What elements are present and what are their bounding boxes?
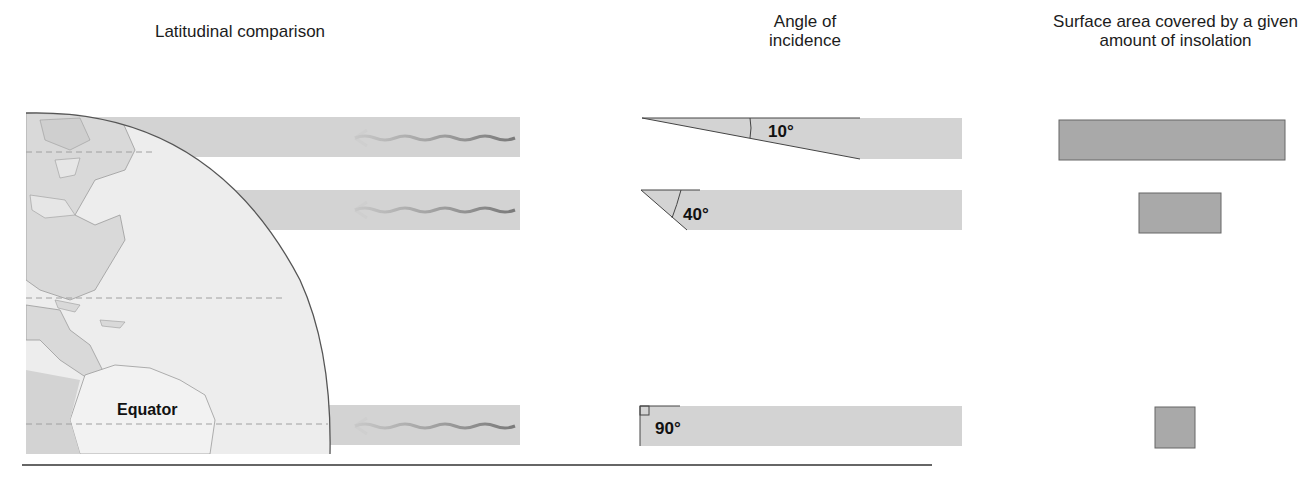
globe [26, 113, 330, 454]
angle-label-40: 40° [683, 205, 709, 225]
angle-label-90: 90° [655, 419, 681, 439]
angle-diagrams [640, 118, 962, 446]
area-box-40deg [1139, 193, 1221, 233]
area-box-10deg [1059, 120, 1285, 160]
angle-label-10: 10° [768, 122, 794, 142]
area-box-90deg [1155, 407, 1195, 448]
surface-area-boxes [1059, 120, 1285, 448]
equator-label: Equator [117, 401, 177, 419]
insolation-arrows [355, 130, 515, 434]
